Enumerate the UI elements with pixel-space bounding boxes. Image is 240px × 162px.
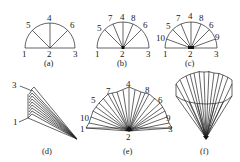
label-4: 4 — [47, 13, 52, 23]
caption-b: (b) — [117, 58, 127, 68]
caption-e: (e) — [123, 146, 133, 156]
label-6: 6 — [209, 20, 214, 30]
fan-ribs — [86, 87, 172, 131]
caption-d: (d) — [42, 146, 52, 156]
label-4: 4 — [126, 79, 131, 89]
label-9: 9 — [215, 32, 220, 42]
label-1: 1 — [13, 117, 18, 127]
label-1: 1 — [163, 49, 168, 59]
label-7: 7 — [108, 13, 113, 23]
label-2: 2 — [126, 132, 131, 142]
panel-c: 1 2 3 10 5 7 4 8 6 9 (c) — [156, 11, 220, 68]
label-5: 5 — [26, 20, 31, 30]
label-10: 10 — [156, 33, 166, 43]
caption-a: (a) — [44, 58, 54, 68]
label-6: 6 — [70, 20, 75, 30]
label-4: 4 — [120, 12, 125, 22]
caption-c: (c) — [185, 58, 195, 68]
label-8: 8 — [131, 13, 136, 23]
panel-e: 1 2 3 10 5 7 4 8 6 9 (e) — [80, 79, 173, 156]
panel-b: 1 2 3 5 7 4 8 6 (b) — [95, 12, 151, 68]
label-6: 6 — [143, 20, 148, 30]
panel-f: (f) — [176, 71, 232, 156]
label-5: 5 — [91, 95, 96, 105]
label-6: 6 — [158, 95, 163, 105]
fan-folding-diagram: 1 2 3 5 4 6 (a) 1 2 3 5 7 4 8 6 (b) — [0, 0, 240, 162]
label-8: 8 — [145, 85, 150, 95]
label-3: 3 — [146, 49, 151, 59]
label-3: 3 — [73, 49, 78, 59]
label-9: 9 — [166, 113, 171, 123]
label-5: 5 — [97, 23, 102, 33]
label-4: 4 — [188, 11, 193, 21]
panel-a: 1 2 3 5 4 6 (a) — [22, 13, 78, 68]
label-1: 1 — [95, 49, 100, 59]
label-8: 8 — [199, 13, 204, 23]
label-3: 3 — [12, 80, 17, 90]
caption-f: (f) — [200, 146, 209, 156]
label-1: 1 — [22, 49, 27, 59]
label-7: 7 — [176, 13, 181, 23]
label-7: 7 — [106, 86, 111, 96]
panel-d: 3 1 (d) — [12, 80, 77, 156]
label-3: 3 — [168, 124, 173, 134]
label-1: 1 — [80, 124, 85, 134]
label-5: 5 — [166, 21, 171, 31]
label-10: 10 — [80, 113, 90, 123]
label-3: 3 — [214, 49, 219, 59]
